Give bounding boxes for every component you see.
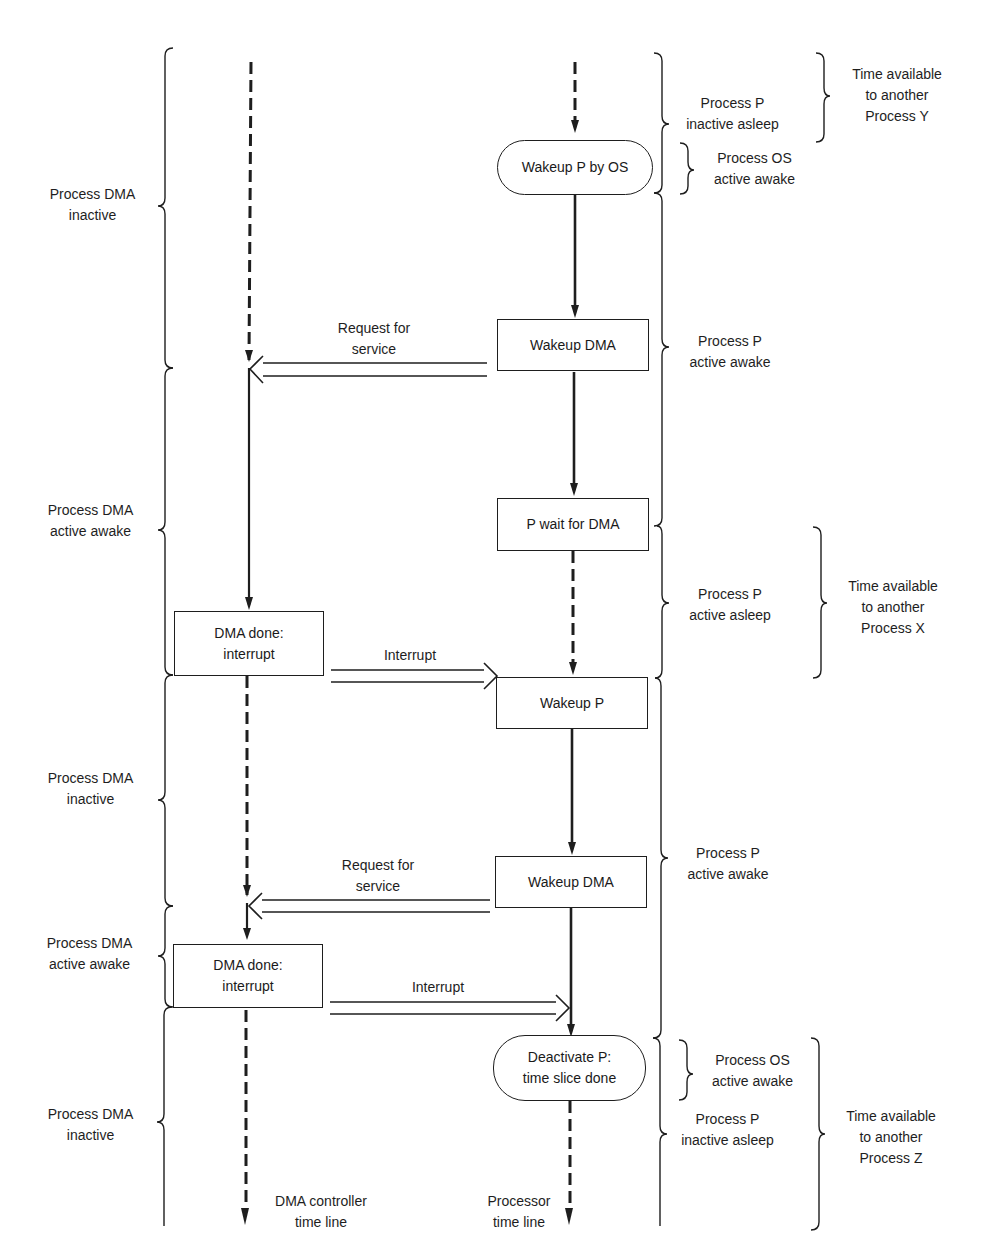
- wakeup-p-box: Wakeup P: [496, 677, 648, 729]
- dma-state-4: Process DMA active awake: [27, 933, 152, 975]
- processor-state-braces: [653, 53, 694, 1226]
- dma-done-box-1: DMA done: interrupt: [174, 611, 324, 676]
- processor-state-6: Process OS active awake: [690, 1050, 815, 1092]
- processor-state-3: Process P active awake: [670, 331, 790, 373]
- processor-state-7: Process P inactive asleep: [665, 1109, 790, 1151]
- step-label: Wakeup P: [540, 693, 604, 714]
- wakeup-dma-box-2: Wakeup DMA: [495, 856, 647, 908]
- state-label: active awake: [690, 1071, 815, 1092]
- step-label: DMA done:: [214, 623, 283, 644]
- step-label: Wakeup DMA: [528, 872, 614, 893]
- state-label: Process DMA: [28, 1104, 153, 1125]
- dma-timeline-dashed-1: [249, 62, 251, 360]
- request-arrow-1: [250, 356, 487, 383]
- state-label: Process DMA: [27, 933, 152, 954]
- state-label: active awake: [668, 864, 788, 885]
- time-available-y: Time available to another Process Y: [832, 64, 962, 127]
- state-label: Process P: [670, 93, 795, 114]
- state-label: Process P: [668, 843, 788, 864]
- dma-state-2: Process DMA active awake: [28, 500, 153, 542]
- timeline-label: DMA controller: [256, 1191, 386, 1212]
- state-label: active awake: [27, 954, 152, 975]
- processor-state-4: Process P active asleep: [670, 584, 790, 626]
- state-label: active awake: [692, 169, 817, 190]
- timeline-label: time line: [478, 1212, 560, 1233]
- dma-state-braces: [157, 48, 173, 1226]
- state-label: Process OS: [692, 148, 817, 169]
- processor-timeline-label: Processor time line: [478, 1191, 560, 1233]
- state-label: inactive: [30, 205, 155, 226]
- state-label: active asleep: [670, 605, 790, 626]
- step-label: P wait for DMA: [526, 514, 619, 535]
- time-available-label: to another: [828, 597, 958, 618]
- step-label: Wakeup DMA: [530, 335, 616, 356]
- timeline-label: Processor: [478, 1191, 560, 1212]
- p-wait-for-dma-box: P wait for DMA: [497, 498, 649, 551]
- time-available-label: Process Y: [832, 106, 962, 127]
- time-available-label: Time available: [828, 576, 958, 597]
- dma-state-5: Process DMA inactive: [28, 1104, 153, 1146]
- interrupt-arrow-2: [330, 995, 569, 1021]
- time-available-label: Process Z: [826, 1148, 956, 1169]
- interrupt-arrow-1: [331, 663, 497, 689]
- timeline-label: time line: [256, 1212, 386, 1233]
- step-label: time slice done: [523, 1068, 616, 1089]
- request-label-1: Request for service: [318, 318, 430, 360]
- deactivate-p-box: Deactivate P: time slice done: [493, 1035, 646, 1101]
- time-available-x: Time available to another Process X: [828, 576, 958, 639]
- processor-state-5: Process P active awake: [668, 843, 788, 885]
- state-label: Process DMA: [28, 768, 153, 789]
- message-label: service: [322, 876, 434, 897]
- state-label: active awake: [28, 521, 153, 542]
- step-label: interrupt: [223, 644, 274, 665]
- wakeup-dma-box-1: Wakeup DMA: [497, 319, 649, 371]
- step-label: Deactivate P:: [528, 1047, 611, 1068]
- time-available-z: Time available to another Process Z: [826, 1106, 956, 1169]
- dma-timeline-label: DMA controller time line: [256, 1191, 386, 1233]
- wakeup-p-by-os-box: Wakeup P by OS: [497, 140, 653, 195]
- state-label: Process DMA: [28, 500, 153, 521]
- processor-state-1: Process P inactive asleep: [670, 93, 795, 135]
- message-label: Request for: [318, 318, 430, 339]
- interrupt-label-2: Interrupt: [388, 977, 488, 998]
- dma-done-box-2: DMA done: interrupt: [173, 944, 323, 1008]
- message-label: Request for: [322, 855, 434, 876]
- time-available-label: Time available: [826, 1106, 956, 1127]
- step-label: interrupt: [222, 976, 273, 997]
- step-label: Wakeup P by OS: [522, 157, 629, 178]
- state-label: Process P: [665, 1109, 790, 1130]
- dma-state-3: Process DMA inactive: [28, 768, 153, 810]
- message-label: service: [318, 339, 430, 360]
- time-available-label: Process X: [828, 618, 958, 639]
- state-label: Process P: [670, 584, 790, 605]
- state-label: inactive asleep: [665, 1130, 790, 1151]
- state-label: Process DMA: [30, 184, 155, 205]
- state-label: Process OS: [690, 1050, 815, 1071]
- message-label: Interrupt: [388, 977, 488, 998]
- time-available-label: to another: [832, 85, 962, 106]
- message-label: Interrupt: [360, 645, 460, 666]
- state-label: inactive asleep: [670, 114, 795, 135]
- state-label: inactive: [28, 1125, 153, 1146]
- state-label: inactive: [28, 789, 153, 810]
- processor-state-2: Process OS active awake: [692, 148, 817, 190]
- time-available-label: Time available: [832, 64, 962, 85]
- state-label: Process P: [670, 331, 790, 352]
- interrupt-label-1: Interrupt: [360, 645, 460, 666]
- dma-state-1: Process DMA inactive: [30, 184, 155, 226]
- request-label-2: Request for service: [322, 855, 434, 897]
- step-label: DMA done:: [213, 955, 282, 976]
- time-available-label: to another: [826, 1127, 956, 1148]
- state-label: active awake: [670, 352, 790, 373]
